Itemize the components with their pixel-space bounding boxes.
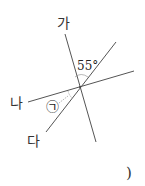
angle-55-label: 55° (77, 60, 98, 72)
pointer-line (59, 96, 68, 103)
answer-paren: ) (126, 166, 132, 181)
angle-arc-unknown (68, 91, 72, 98)
angle-unknown-label: ㉠ (46, 100, 59, 113)
lines-svg (0, 0, 145, 186)
intersection-dot (79, 86, 81, 88)
label-ga: 가 (57, 16, 70, 30)
label-na: 나 (10, 96, 23, 110)
label-da: 다 (27, 134, 40, 148)
